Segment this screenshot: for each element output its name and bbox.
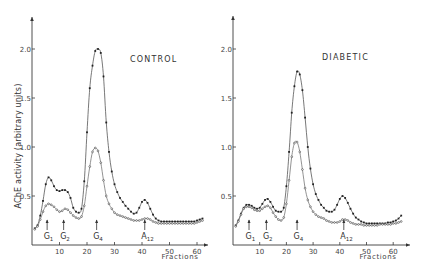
data-point (382, 224, 384, 226)
data-point (163, 223, 165, 225)
data-point (326, 210, 328, 212)
data-point (133, 213, 135, 215)
data-point (56, 209, 58, 211)
data-point (323, 218, 325, 220)
data-point (152, 214, 154, 216)
peak-label: G2 (60, 232, 70, 242)
data-point (50, 204, 52, 206)
data-point (395, 220, 397, 222)
data-point (302, 169, 304, 171)
data-point (331, 211, 333, 213)
data-point (122, 216, 124, 218)
y-tick-label: 1.5 (221, 95, 232, 103)
data-point (61, 189, 63, 191)
data-point (320, 204, 322, 206)
data-point (138, 220, 140, 222)
data-point (371, 223, 373, 225)
data-point (67, 209, 69, 211)
x-axis-arrow-icon (204, 243, 208, 247)
data-point (283, 217, 285, 219)
data-point (245, 206, 247, 208)
data-point (243, 208, 245, 210)
data-point (111, 171, 113, 173)
data-point (83, 205, 85, 207)
data-point (358, 224, 360, 226)
data-point (336, 222, 338, 224)
data-point (395, 223, 397, 225)
data-point (267, 198, 269, 200)
data-point (188, 221, 190, 223)
data-point (64, 208, 66, 210)
data-point (177, 223, 179, 225)
data-point (81, 216, 83, 218)
data-point (264, 206, 266, 208)
data-point (182, 223, 184, 225)
data-point (307, 146, 309, 148)
data-point (193, 221, 195, 223)
data-point (174, 221, 176, 223)
data-point (272, 206, 274, 208)
data-point (169, 221, 171, 223)
data-point (379, 224, 381, 226)
data-point (191, 221, 193, 223)
data-point (171, 221, 173, 223)
data-point (100, 162, 102, 164)
data-point (136, 212, 138, 214)
data-point (89, 166, 91, 168)
data-point (363, 222, 365, 224)
data-point (374, 223, 376, 225)
data-point (191, 223, 193, 225)
data-point (75, 217, 77, 219)
data-point (334, 222, 336, 224)
data-point (291, 112, 293, 114)
data-point (235, 225, 237, 227)
data-point (42, 211, 44, 213)
peak-label: A12 (340, 232, 352, 242)
data-point (352, 213, 354, 215)
data-point (196, 222, 198, 224)
control-panel: 0.51.01.52.0102030405060CONTROLFractions… (20, 17, 208, 261)
data-point (400, 215, 402, 217)
data-point (86, 131, 88, 133)
data-point (277, 219, 279, 221)
data-point (72, 215, 74, 217)
data-point (398, 222, 400, 224)
data-point (127, 208, 129, 210)
data-point (37, 225, 39, 227)
data-point (100, 52, 102, 54)
data-point (387, 224, 389, 226)
data-point (256, 208, 258, 210)
data-point (312, 211, 314, 213)
data-point (166, 221, 168, 223)
data-point (342, 195, 344, 197)
up-arrow-icon (143, 220, 146, 224)
data-point (70, 212, 72, 214)
data-point (368, 223, 370, 225)
data-point (328, 211, 330, 213)
data-point (155, 222, 157, 224)
peak-label: G4 (294, 232, 304, 242)
data-point (259, 210, 261, 212)
data-point (248, 204, 250, 206)
data-point (339, 198, 341, 200)
data-point (251, 207, 253, 209)
data-point (144, 199, 146, 201)
data-point (360, 221, 362, 223)
data-point (158, 223, 160, 225)
data-point (130, 219, 132, 221)
peak-label: G4 (93, 232, 103, 242)
data-point (114, 183, 116, 185)
data-point (196, 220, 198, 222)
data-point (366, 225, 368, 227)
data-point (75, 211, 77, 213)
data-point (363, 225, 365, 227)
data-point (286, 185, 288, 187)
x-tick-label: 40 (138, 248, 147, 256)
data-point (374, 225, 376, 227)
data-point (147, 202, 149, 204)
data-point (269, 201, 271, 203)
x-tick-label: 30 (110, 248, 119, 256)
data-point (56, 189, 58, 191)
data-point (160, 221, 162, 223)
data-point (277, 211, 279, 213)
